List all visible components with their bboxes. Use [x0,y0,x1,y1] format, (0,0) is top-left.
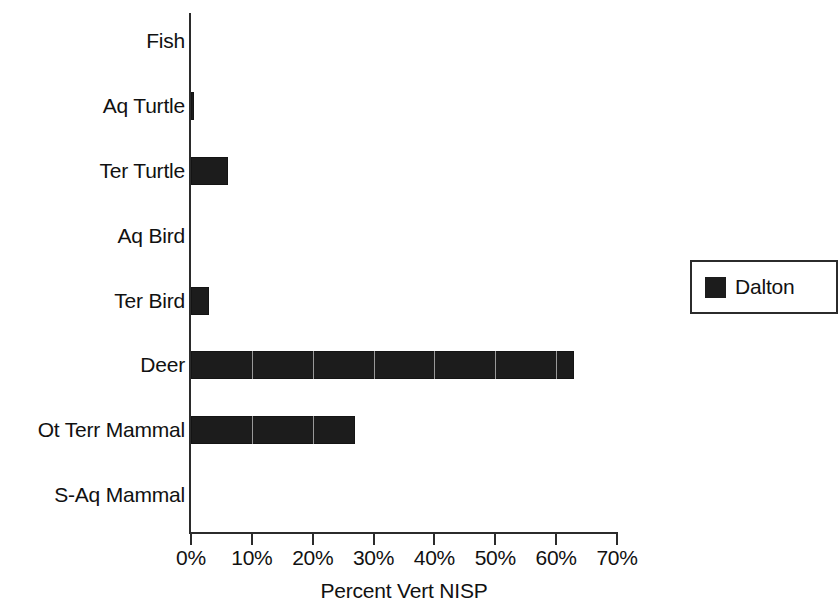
x-axis-tick-label: 30% [353,546,394,570]
category-label: Aq Bird [118,224,185,248]
x-axis-tick-label: 40% [414,546,455,570]
category-label: Deer [140,353,185,377]
category-label: Ter Bird [114,289,185,313]
chart-legend: Dalton [690,260,838,314]
x-axis-tick-label: 20% [292,546,333,570]
bar-deer [191,351,574,379]
chart-row: Aq Bird [0,203,820,268]
x-axis-tick [494,534,496,545]
bar-ot-terr-mammal [191,416,355,444]
bar-ter-turtle [191,157,228,185]
gridline-artifact [252,416,253,444]
category-label: Aq Turtle [103,94,185,118]
legend-swatch-icon [705,277,726,298]
gridline-artifact [556,351,557,379]
gridline-artifact [374,351,375,379]
legend-entry: Dalton [705,262,795,312]
gridline-artifact [252,351,253,379]
x-axis-tick [373,534,375,545]
category-label: Ot Terr Mammal [38,418,185,442]
category-label: S-Aq Mammal [54,483,185,507]
x-axis-tick [433,534,435,545]
category-label: Ter Turtle [99,159,185,183]
x-axis-tick [616,534,618,545]
chart-row: Ter Turtle [0,139,820,204]
x-axis-title: Percent Vert NISP [191,578,617,603]
legend-entry-label: Dalton [735,275,795,299]
chart-row: S-Aq Mammal [0,463,820,528]
x-axis-tick [312,534,314,545]
x-axis-tick-label: 70% [596,546,637,570]
chart-row: Fish [0,9,820,74]
bar-aq-turtle [191,92,194,120]
gridline-artifact [313,351,314,379]
chart-row: Aq Turtle [0,74,820,139]
x-axis-tick [555,534,557,545]
x-axis-tick [251,534,253,545]
x-axis-tick-label: 10% [231,546,272,570]
x-axis-line [189,532,618,534]
category-label: Fish [146,29,185,53]
x-axis-tick-label: 50% [475,546,516,570]
x-axis-tick-label: 60% [536,546,577,570]
x-axis-tick-label: 0% [176,546,206,570]
chart-row: Ot Terr Mammal [0,398,820,463]
gridline-artifact [434,351,435,379]
gridline-artifact [495,351,496,379]
x-axis-tick [190,534,192,545]
chart-row: Deer [0,333,820,398]
bar-ter-bird [191,287,209,315]
gridline-artifact [313,416,314,444]
